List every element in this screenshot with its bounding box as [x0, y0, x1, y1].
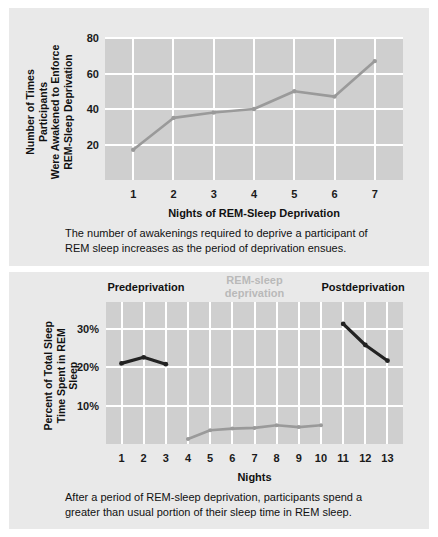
bottom-chart-data-point	[163, 362, 168, 367]
bottom-chart-data-point	[275, 423, 279, 427]
bottom-chart-data-point	[186, 437, 190, 441]
top-chart-data-point	[252, 107, 256, 111]
bottom-chart-data-point	[253, 426, 257, 430]
bottom-chart-line-postdeprivation	[343, 324, 387, 361]
bottom-chart-data-point	[363, 343, 368, 348]
bottom-chart-data-point	[141, 355, 146, 360]
top-figure-panel: Number of Times Participants Were Awaken…	[9, 8, 429, 266]
top-chart-caption: The number of awakenings required to dep…	[65, 226, 387, 256]
figure-page: Number of Times Participants Were Awaken…	[0, 0, 438, 537]
top-chart-line-awakenings	[133, 61, 375, 150]
top-chart-x-axis-title: Nights of REM-Sleep Deprivation	[105, 207, 403, 219]
bottom-chart-x-axis-title: Nights	[106, 471, 403, 483]
bottom-chart-data-point	[119, 361, 124, 366]
top-chart-data-point	[212, 110, 216, 114]
bottom-chart-data-point	[341, 322, 346, 327]
bottom-chart-data-point	[297, 425, 301, 429]
bottom-chart-data-point	[208, 428, 212, 432]
top-chart-data-point	[292, 89, 296, 93]
bottom-chart-data-point	[385, 358, 390, 363]
bottom-figure-panel: PredeprivationREM-sleep deprivationPostd…	[9, 272, 429, 529]
bottom-chart-data-point	[230, 427, 234, 431]
bottom-chart-data-point	[319, 423, 323, 427]
top-chart-data-point	[171, 116, 175, 120]
bottom-chart-caption: After a period of REM-sleep deprivation,…	[65, 490, 395, 520]
top-chart-data-point	[332, 94, 336, 98]
top-chart-data-point	[373, 59, 377, 63]
top-chart-data-point	[131, 148, 135, 152]
